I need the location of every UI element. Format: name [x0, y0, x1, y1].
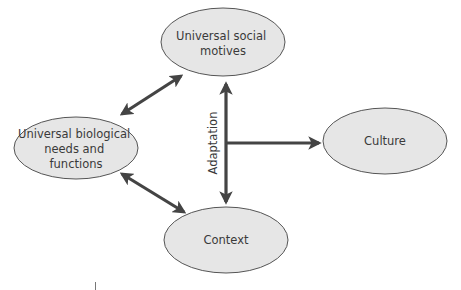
arrow-biological-context	[122, 174, 184, 212]
node-label-line: motives	[200, 44, 246, 58]
node-label-culture: Culture	[364, 134, 406, 148]
node-universal-biological-needs: Universal biological needs and functions	[14, 117, 138, 179]
node-label-line: functions	[50, 157, 103, 171]
node-context: Context	[164, 207, 288, 273]
node-culture: Culture	[323, 108, 447, 174]
node-label-line: needs and	[44, 142, 104, 156]
diagram-canvas: Universal social motives Universal biolo…	[0, 0, 461, 290]
arrow-biological-social	[122, 76, 181, 114]
node-label-context: Context	[203, 233, 249, 247]
node-label-line: Universal social	[176, 29, 266, 43]
node-universal-social-motives: Universal social motives	[161, 8, 285, 76]
adaptation-label: Adaptation	[206, 112, 220, 175]
node-label-line: Universal biological	[18, 127, 130, 141]
